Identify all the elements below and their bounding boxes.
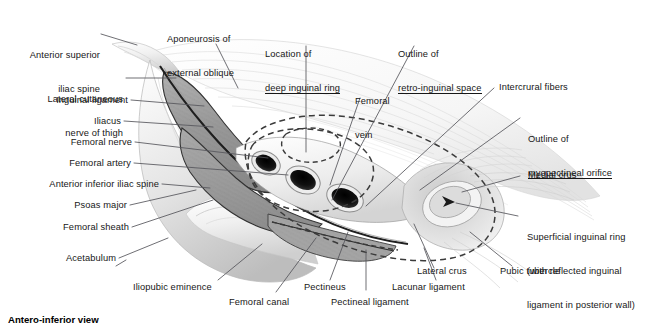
label-iliacus: Iliacus — [0, 116, 121, 127]
label-femoral-nerve: Femoral nerve — [0, 137, 132, 148]
label-femoral-vein: Femoral vein — [355, 74, 425, 152]
label-aponeurosis-of-external-oblique: Aponeurosis of external oblique — [167, 12, 277, 90]
label-line-2: external oblique — [167, 68, 277, 79]
label-line-1: Superficial inguinal ring — [527, 232, 661, 243]
label-inguinal-ligament: Inguinal ligament — [0, 95, 128, 106]
label-medial-crus: Medial crus — [528, 170, 648, 181]
label-femoral-sheath: Femoral sheath — [0, 222, 129, 233]
label-line-2-underlined: deep inguinal ring — [265, 83, 340, 94]
label-acetabulum: Acetabulum — [0, 253, 116, 264]
label-lateral-crus: Lateral crus — [417, 266, 497, 277]
label-iliopubic-eminence: Iliopubic eminence — [133, 282, 253, 293]
label-pubic-tubercle: Pubic tubercle — [500, 266, 590, 277]
label-lacunar-ligament: Lacunar ligament — [392, 282, 502, 293]
label-line-1: Location of — [265, 49, 385, 60]
label-line-1: Femoral — [355, 96, 425, 107]
label-pectineal-ligament: Pectineal ligament — [331, 297, 441, 308]
label-anterior-inferior-iliac-spine: Anterior inferior iliac spine — [0, 179, 159, 190]
label-intercrural-fibers: Intercrural fibers — [499, 82, 649, 93]
label-line-1: Anterior superior — [0, 50, 100, 61]
label-pectineus: Pectineus — [304, 282, 384, 293]
label-femoral-canal: Femoral canal — [229, 297, 339, 308]
label-line-2: vein — [355, 130, 425, 141]
label-psoas-major: Psoas major — [0, 200, 127, 211]
label-line-1: Outline of — [528, 134, 660, 145]
figure-caption: Antero-inferior view — [8, 314, 99, 325]
label-line-3: ligament in posterior wall) — [527, 300, 661, 311]
label-line-1: Outline of — [398, 49, 528, 60]
label-femoral-artery: Femoral artery — [0, 158, 131, 169]
label-line-1: Aponeurosis of — [167, 34, 277, 45]
